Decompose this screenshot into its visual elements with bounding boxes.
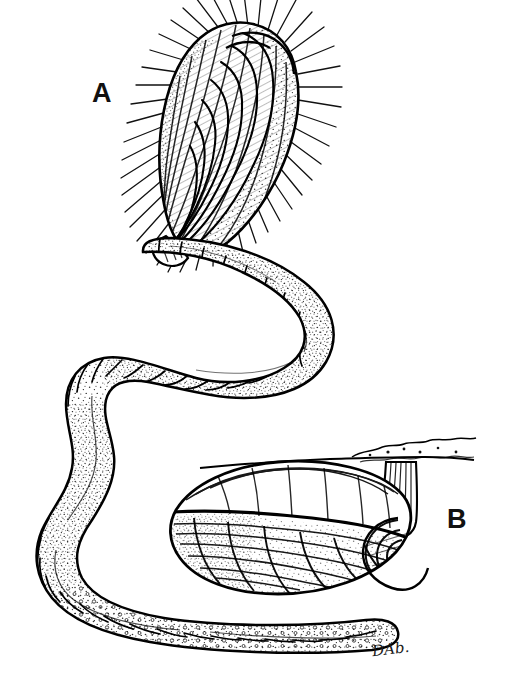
- illustration-plate: A B DAb.: [0, 0, 507, 692]
- panel-label-a: A: [92, 80, 112, 107]
- panel-label-b: B: [447, 506, 467, 533]
- plate-drawing: [0, 0, 507, 692]
